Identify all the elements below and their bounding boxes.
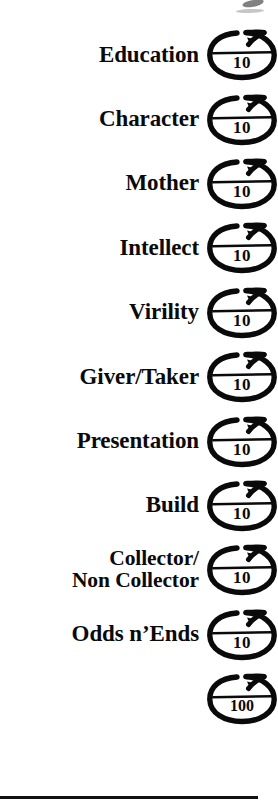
score-denominator: 10 bbox=[206, 312, 278, 329]
score-denominator: 10 bbox=[206, 441, 278, 458]
score-denominator: 10 bbox=[206, 119, 278, 136]
score-row: Presentation 10 bbox=[0, 408, 278, 472]
score-row: Character 10 bbox=[0, 86, 278, 150]
score-row: Intellect 10 bbox=[0, 215, 278, 279]
score-row-label: Presentation bbox=[77, 429, 206, 452]
circled-score-blank-icon[interactable]: 10 bbox=[206, 541, 278, 597]
scan-artifact-mark-secondary bbox=[236, 9, 264, 14]
footer-divider-rule bbox=[0, 796, 258, 799]
circled-score-blank-icon[interactable]: 10 bbox=[206, 155, 278, 211]
score-row-label: Mother bbox=[126, 171, 206, 194]
score-denominator: 10 bbox=[206, 54, 278, 71]
circled-score-blank-icon[interactable]: 10 bbox=[206, 26, 278, 82]
score-row-list: Education 10Character 10Mother 1 bbox=[0, 22, 278, 730]
score-denominator: 10 bbox=[206, 183, 278, 200]
score-denominator: 10 bbox=[206, 569, 278, 586]
circled-score-blank-icon[interactable]: 10 bbox=[206, 606, 278, 662]
score-row: Mother 10 bbox=[0, 151, 278, 215]
circled-score-blank-icon[interactable]: 10 bbox=[206, 219, 278, 275]
score-row-label: Education bbox=[99, 43, 206, 66]
score-row-label: Intellect bbox=[119, 236, 206, 259]
score-row: Virility 10 bbox=[0, 280, 278, 344]
score-row: Odds n’Ends 10 bbox=[0, 602, 278, 666]
score-row: 100 bbox=[0, 666, 278, 730]
circled-total-score-icon[interactable]: 100 bbox=[206, 670, 278, 726]
scan-artifact-mark bbox=[242, 0, 265, 8]
circled-score-blank-icon[interactable]: 10 bbox=[206, 477, 278, 533]
score-row-label: Giver/Taker bbox=[80, 365, 206, 388]
score-denominator: 10 bbox=[206, 247, 278, 264]
score-row: Education 10 bbox=[0, 22, 278, 86]
circled-score-blank-icon[interactable]: 10 bbox=[206, 284, 278, 340]
circled-score-blank-icon[interactable]: 10 bbox=[206, 413, 278, 469]
circled-score-blank-icon[interactable]: 10 bbox=[206, 348, 278, 404]
score-row-label: Collector/ Non Collector bbox=[72, 547, 206, 591]
score-denominator: 100 bbox=[206, 698, 278, 714]
score-row-label: Character bbox=[99, 107, 206, 130]
score-row: Collector/ Non Collector 10 bbox=[0, 537, 278, 601]
score-denominator: 10 bbox=[206, 376, 278, 393]
score-row-label: Virility bbox=[129, 300, 206, 323]
score-row: Giver/Taker 10 bbox=[0, 344, 278, 408]
score-row: Build 10 bbox=[0, 473, 278, 537]
score-denominator: 10 bbox=[206, 505, 278, 522]
scoring-sheet: Education 10Character 10Mother 1 bbox=[0, 0, 278, 809]
score-denominator: 10 bbox=[206, 634, 278, 651]
score-row-label: Build bbox=[146, 493, 206, 516]
score-row-label: Odds n’Ends bbox=[72, 622, 206, 645]
circled-score-blank-icon[interactable]: 10 bbox=[206, 91, 278, 147]
